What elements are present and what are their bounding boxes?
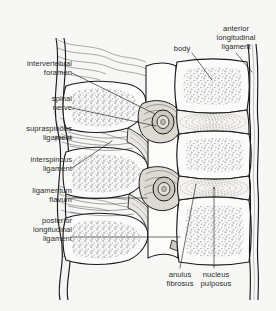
label-supraspinous-ligament-line1: supraspinous bbox=[2, 124, 72, 133]
label-interspinous-ligament: interspinous ligament bbox=[2, 155, 72, 173]
label-anterior-longitudinal-ligament: anterior longitudinal ligament bbox=[200, 24, 272, 52]
label-posterior-longitudinal-ligament: posterior longitudinal ligament bbox=[2, 216, 72, 244]
label-ligamentum-flavum-line2: flavum bbox=[2, 195, 72, 204]
label-supraspinous-ligament-line2: ligament bbox=[2, 133, 72, 142]
label-ligamentum-flavum: ligamentum flavum bbox=[2, 186, 72, 204]
label-intervertebral-foramen-line2: foramen bbox=[2, 68, 72, 77]
label-spinal-nerve: spinal nerve bbox=[2, 94, 72, 112]
vertebral-arch-column bbox=[146, 63, 178, 258]
label-supraspinous-ligament: supraspinous ligament bbox=[2, 124, 72, 142]
label-posterior-longitudinal-ligament-line2: longitudinal bbox=[2, 225, 72, 234]
label-nucleus-pulposus-line2: pulposus bbox=[186, 279, 246, 288]
spinous-process-middle bbox=[63, 147, 148, 198]
spinal-nerve-lower bbox=[153, 177, 175, 201]
label-posterior-longitudinal-ligament-line1: posterior bbox=[2, 216, 72, 225]
label-ligamentum-flavum-line1: ligamentum bbox=[2, 186, 72, 195]
intervertebral-disc-upper bbox=[177, 110, 249, 134]
label-interspinous-ligament-line2: ligament bbox=[2, 164, 72, 173]
anterior-longitudinal-ligament-structure bbox=[248, 44, 259, 300]
vertebral-body-upper bbox=[175, 59, 250, 113]
label-body: body bbox=[164, 44, 200, 53]
label-anterior-longitudinal-ligament-line2: longitudinal bbox=[200, 33, 272, 42]
label-anterior-longitudinal-ligament-line3: ligament bbox=[200, 42, 272, 51]
intervertebral-foramen-lower bbox=[139, 167, 183, 211]
label-nucleus-pulposus-line1: nucleus bbox=[186, 270, 246, 279]
label-spinal-nerve-line1: spinal bbox=[2, 94, 72, 103]
intervertebral-foramen-upper bbox=[138, 101, 181, 143]
figure-panel: intervertebral foramen spinal nerve supr… bbox=[0, 0, 276, 311]
spinal-nerve-upper bbox=[152, 110, 174, 134]
vertebral-body-middle bbox=[177, 131, 252, 179]
label-body-line1: body bbox=[164, 44, 200, 53]
label-spinal-nerve-line2: nerve bbox=[2, 103, 72, 112]
label-posterior-longitudinal-ligament-line3: ligament bbox=[2, 234, 72, 243]
label-anterior-longitudinal-ligament-line1: anterior bbox=[200, 24, 272, 33]
label-interspinous-ligament-line1: interspinous bbox=[2, 155, 72, 164]
spinous-process-lower bbox=[63, 213, 148, 264]
label-nucleus-pulposus: nucleus pulposus bbox=[186, 270, 246, 288]
label-intervertebral-foramen-line1: intervertebral bbox=[2, 59, 72, 68]
label-intervertebral-foramen: intervertebral foramen bbox=[2, 59, 72, 77]
